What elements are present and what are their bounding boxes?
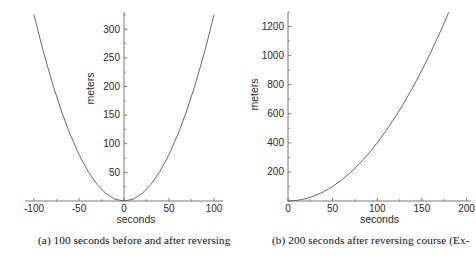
- y-tick-label: 100: [103, 138, 120, 149]
- x-tick-label: -50: [72, 203, 87, 214]
- y-tick-label: 200: [103, 81, 120, 92]
- y-tick-label: 800: [267, 79, 284, 90]
- x-tick-label: 150: [414, 203, 431, 214]
- x-tick-label: 100: [369, 203, 386, 214]
- chart-panel-b: 05010015020020040060080010001200secondsm…: [238, 0, 476, 228]
- y-tick-label: 1000: [262, 50, 285, 61]
- y-axis-label: meters: [248, 78, 260, 110]
- x-tick-label: 50: [327, 203, 339, 214]
- y-tick-label: 300: [103, 24, 120, 35]
- figure-container: -100-5005010050100150200250300secondsmet…: [0, 0, 476, 257]
- y-axis-label: meters: [84, 72, 96, 104]
- x-tick-label: 200: [458, 203, 475, 214]
- x-axis-label: seconds: [360, 213, 399, 225]
- x-tick-label: 50: [163, 203, 175, 214]
- x-axis-label: seconds: [116, 213, 155, 225]
- caption-a: (a) 100 seconds before and after reversi…: [38, 234, 230, 246]
- plot-b: 05010015020020040060080010001200secondsm…: [238, 0, 476, 228]
- y-tick-label: 50: [109, 167, 121, 178]
- y-tick-label: 250: [103, 52, 120, 63]
- x-tick-label: 0: [285, 203, 291, 214]
- chart-panel-a: -100-5005010050100150200250300secondsmet…: [0, 0, 238, 228]
- y-tick-label: 400: [267, 137, 284, 148]
- y-tick-label: 1200: [262, 21, 285, 32]
- x-tick-label: 100: [206, 203, 223, 214]
- y-tick-label: 200: [267, 166, 284, 177]
- y-tick-label: 600: [267, 108, 284, 119]
- plot-a: -100-5005010050100150200250300secondsmet…: [0, 0, 238, 228]
- caption-b: (b) 200 seconds after reversing course (…: [272, 234, 470, 246]
- x-tick-label: -100: [24, 203, 44, 214]
- x-tick-label: 0: [121, 203, 127, 214]
- figure-captions: (a) 100 seconds before and after reversi…: [0, 228, 476, 257]
- y-tick-label: 150: [103, 109, 120, 120]
- data-curve: [288, 13, 449, 201]
